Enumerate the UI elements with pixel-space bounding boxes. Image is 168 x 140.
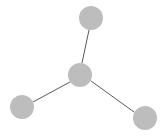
node-bottom-right	[133, 106, 157, 130]
node-center	[68, 63, 92, 87]
node-top	[79, 6, 103, 30]
graph-svg	[0, 0, 168, 140]
node-bottom-left	[10, 95, 34, 119]
graph-diagram-canvas	[0, 0, 168, 140]
